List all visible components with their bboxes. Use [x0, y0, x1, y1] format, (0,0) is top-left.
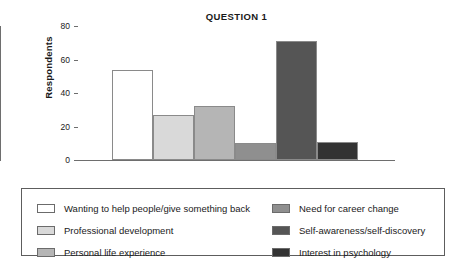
y-tick-40: 40 [0, 93, 70, 94]
bar-5[interactable] [276, 41, 317, 160]
tick-label: 20 [44, 123, 70, 132]
y-tick-20: 20 [0, 127, 70, 128]
legend-item-2[interactable]: Professional development [37, 219, 250, 241]
bar-1[interactable] [112, 70, 153, 160]
y-tick-60: 60 [0, 60, 70, 61]
x-axis-line [78, 160, 395, 161]
plot-area [78, 26, 395, 160]
y-tick-80: 80 [0, 26, 70, 27]
tick-label: 60 [44, 56, 70, 65]
legend-swatch-icon [37, 226, 55, 235]
tick-label: 80 [44, 22, 70, 31]
bar-3[interactable] [194, 106, 235, 160]
bar-2[interactable] [153, 115, 194, 160]
bar-4[interactable] [235, 143, 276, 160]
legend-item-5[interactable]: Self-awareness/self-discovery [272, 219, 425, 241]
legend-column-left: Wanting to help people/give something ba… [37, 197, 250, 263]
legend-item-4[interactable]: Need for career change [272, 197, 425, 219]
bar-chart-figure: QUESTION 1 Respondents 806040200 Wanting… [0, 0, 467, 279]
tick-label: 40 [44, 89, 70, 98]
legend-swatch-icon [272, 204, 290, 213]
legend-label: Professional development [64, 225, 173, 236]
legend-label: Wanting to help people/give something ba… [64, 203, 250, 214]
legend-swatch-icon [37, 248, 55, 257]
chart-legend: Wanting to help people/give something ba… [21, 188, 445, 256]
tick-label: 0 [44, 156, 70, 165]
legend-item-1[interactable]: Wanting to help people/give something ba… [37, 197, 250, 219]
legend-item-6[interactable]: Interest in psychology [272, 241, 425, 263]
legend-swatch-icon [272, 226, 290, 235]
legend-label: Self-awareness/self-discovery [299, 225, 425, 236]
y-tick-0: 0 [0, 160, 70, 161]
bar-series [112, 26, 358, 160]
legend-label: Need for career change [299, 203, 399, 214]
legend-label: Personal life experience [64, 247, 165, 258]
tick-mark [74, 160, 78, 161]
legend-item-3[interactable]: Personal life experience [37, 241, 250, 263]
legend-label: Interest in psychology [299, 247, 391, 258]
chart-title: QUESTION 1 [78, 11, 395, 22]
bar-6[interactable] [317, 142, 358, 160]
legend-swatch-icon [272, 248, 290, 257]
legend-swatch-icon [37, 204, 55, 213]
legend-column-right: Need for career changeSelf-awareness/sel… [272, 197, 425, 263]
